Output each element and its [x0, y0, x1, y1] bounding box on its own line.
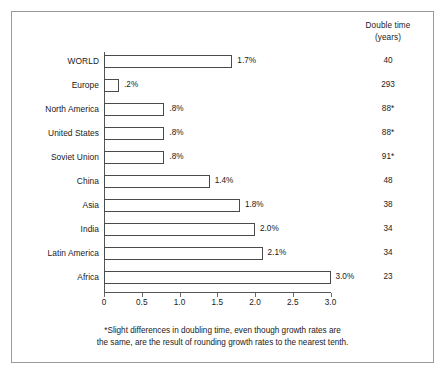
table-row: Europe.2%293	[0, 76, 445, 100]
double-time-header-line2: (years)	[345, 32, 431, 44]
bar	[104, 79, 119, 92]
double-time-value: 38	[345, 200, 431, 209]
x-axis-tick-label: 1.5	[197, 298, 237, 307]
x-axis-tick	[180, 293, 181, 297]
footnote-line2: the same, are the result of rounding gro…	[30, 337, 415, 349]
table-row: North America.8%88*	[0, 100, 445, 124]
x-axis-tick	[217, 293, 218, 297]
table-row: India2.0%34	[0, 220, 445, 244]
category-label: Asia	[0, 200, 99, 210]
category-label: North America	[0, 104, 99, 114]
bar	[104, 103, 164, 116]
category-label: Soviet Union	[0, 152, 99, 162]
bar-value-label: .2%	[124, 80, 138, 89]
bar-value-label: .8%	[169, 104, 183, 113]
bar	[104, 151, 164, 164]
double-time-value: 293	[345, 80, 431, 89]
category-label: Africa	[0, 272, 99, 282]
x-axis-tick	[255, 293, 256, 297]
x-axis-tick	[293, 293, 294, 297]
double-time-value: 34	[345, 224, 431, 233]
table-row: WORLD1.7%40	[0, 52, 445, 76]
x-axis-tick-label: 3.0	[311, 298, 351, 307]
category-label: China	[0, 176, 99, 186]
bar	[104, 127, 164, 140]
table-row: China1.4%48	[0, 172, 445, 196]
table-row: Soviet Union.8%91*	[0, 148, 445, 172]
double-time-value: 48	[345, 176, 431, 185]
x-axis-tick	[104, 293, 105, 297]
bar-value-label: 2.1%	[268, 248, 287, 257]
bar-value-label: 1.8%	[245, 200, 264, 209]
bar-value-label: .8%	[169, 152, 183, 161]
bar-value-label: 1.4%	[215, 176, 234, 185]
category-label: WORLD	[0, 56, 99, 66]
footnote-line1: *Slight differences in doubling time, ev…	[30, 325, 415, 337]
double-time-value: 23	[345, 272, 431, 281]
x-axis-tick-label: 0.5	[122, 298, 162, 307]
bar	[104, 223, 255, 236]
bar	[104, 199, 240, 212]
chart-page: Double time (years) WORLD1.7%40Europe.2%…	[0, 0, 445, 377]
bar-value-label: 2.0%	[260, 224, 279, 233]
x-axis-tick	[331, 293, 332, 297]
double-time-column-header: Double time (years)	[345, 20, 431, 43]
double-time-header-line1: Double time	[345, 20, 431, 32]
x-axis-tick-label: 2.0	[235, 298, 275, 307]
double-time-value: 88*	[345, 104, 431, 113]
bar	[104, 175, 210, 188]
category-label: India	[0, 224, 99, 234]
x-axis-tick-label: 2.5	[273, 298, 313, 307]
category-label: Latin America	[0, 248, 99, 258]
table-row: United States.8%88*	[0, 124, 445, 148]
double-time-value: 40	[345, 56, 431, 65]
double-time-value: 91*	[345, 152, 431, 161]
category-label: United States	[0, 128, 99, 138]
x-axis-tick	[142, 293, 143, 297]
category-label: Europe	[0, 80, 99, 90]
bar-value-label: 1.7%	[237, 56, 256, 65]
double-time-value: 34	[345, 248, 431, 257]
footnote: *Slight differences in doubling time, ev…	[30, 325, 415, 349]
table-row: Africa3.0%23	[0, 268, 445, 292]
bar	[104, 247, 263, 260]
x-axis-tick-label: 1.0	[160, 298, 200, 307]
x-axis-tick-label: 0	[84, 298, 124, 307]
table-row: Latin America2.1%34	[0, 244, 445, 268]
table-row: Asia1.8%38	[0, 196, 445, 220]
bar	[104, 271, 331, 284]
bar	[104, 55, 232, 68]
bar-value-label: .8%	[169, 128, 183, 137]
double-time-value: 88*	[345, 128, 431, 137]
